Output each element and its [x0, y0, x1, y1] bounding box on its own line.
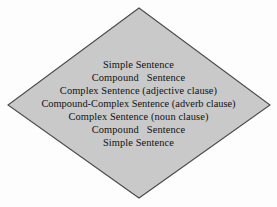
list-item: Simple Sentence — [0, 136, 277, 149]
list-item: Compound Sentence — [0, 71, 277, 84]
list-item: Complex Sentence (noun clause) — [0, 110, 277, 123]
list-item: Simple Sentence — [0, 58, 277, 71]
list-item: Compound Sentence — [0, 123, 277, 136]
list-item: Compound-Complex Sentence (adverb clause… — [0, 97, 277, 110]
list-item: Complex Sentence (adjective clause) — [0, 84, 277, 97]
sentence-type-list: Simple Sentence Compound Sentence Comple… — [0, 0, 277, 207]
sentence-variety-diagram: Simple Sentence Compound Sentence Comple… — [0, 0, 277, 207]
